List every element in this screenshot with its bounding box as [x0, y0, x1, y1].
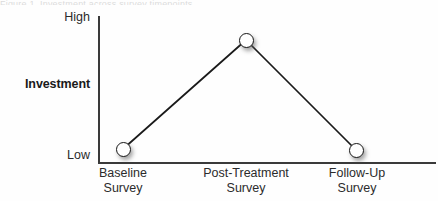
x-category-label-post-treatment-line1: Post-Treatment [203, 166, 289, 180]
x-category-label-follow-up-line1: Follow-Up [329, 166, 385, 180]
x-category-label-baseline-line1: Baseline [99, 166, 147, 180]
data-point-marker-post-treatment[interactable] [239, 33, 254, 48]
x-category-label-follow-up-line2: Survey [297, 181, 417, 196]
data-point-marker-follow-up[interactable] [349, 143, 364, 158]
figure-container: Figure 1. Investment across survey timep… [0, 0, 438, 201]
x-category-label-follow-up: Follow-Up Survey [297, 166, 417, 196]
y-tick-label-high: High [8, 11, 90, 24]
x-category-label-post-treatment: Post-Treatment Survey [177, 166, 315, 196]
data-series-investment [123, 40, 356, 150]
y-tick-label-low: Low [8, 149, 90, 162]
y-axis-title: Investment [2, 77, 90, 91]
x-category-label-baseline-line2: Survey [63, 181, 183, 196]
data-line-path [123, 40, 356, 150]
x-category-label-baseline: Baseline Survey [63, 166, 183, 196]
x-category-label-post-treatment-line2: Survey [177, 181, 315, 196]
data-point-marker-baseline[interactable] [116, 142, 131, 157]
